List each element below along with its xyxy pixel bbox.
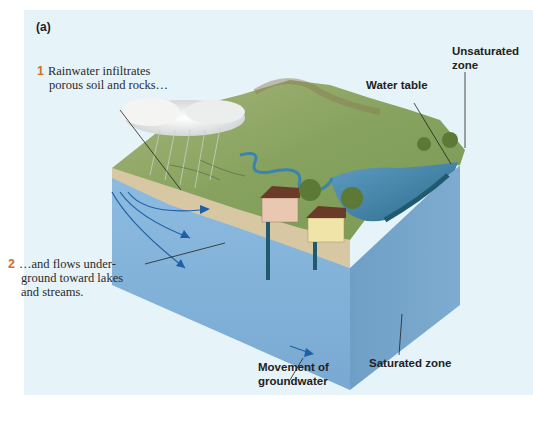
tree [299,179,321,201]
tree [442,132,458,148]
tree [341,187,363,209]
callout-1: 1Rainwater infiltrates porous soil and r… [37,64,168,92]
panel-label: (a) [36,20,51,34]
label-unsaturated-zone: Unsaturated zone [452,44,519,72]
tree [417,137,431,151]
callout-number: 2 [8,257,15,271]
label-saturated-zone: Saturated zone [369,356,451,370]
label-water-table: Water table [366,78,428,92]
callout-2: 2…and flows under- ground toward lakes a… [8,257,123,299]
callout-number: 1 [37,64,44,78]
well-right [313,242,317,270]
label-movement-of-groundwater: Movement of groundwater [258,360,329,388]
well-left [266,222,270,280]
